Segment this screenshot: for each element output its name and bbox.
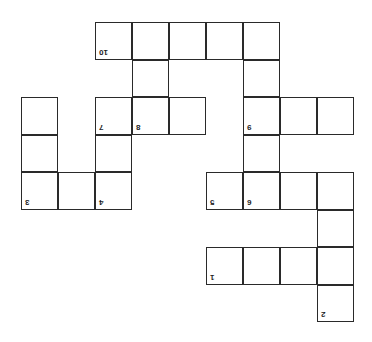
crossword-cell[interactable]: [317, 247, 354, 285]
clue-number: 8: [136, 123, 140, 131]
crossword-cell[interactable]: [243, 22, 280, 60]
crossword-cell[interactable]: [206, 22, 243, 60]
crossword-cell[interactable]: [280, 97, 317, 135]
crossword-cell-5[interactable]: 5: [206, 172, 243, 210]
crossword-cell[interactable]: [132, 22, 169, 60]
crossword-cell[interactable]: [169, 97, 206, 135]
clue-number: 1: [210, 273, 214, 281]
crossword-cell[interactable]: [243, 135, 280, 173]
crossword-cell-2[interactable]: 2: [317, 285, 354, 323]
crossword-cell[interactable]: [317, 172, 354, 210]
crossword-cell[interactable]: [132, 60, 169, 98]
clue-number: 3: [25, 198, 29, 206]
crossword-cell-6[interactable]: 6: [243, 172, 280, 210]
crossword-cell[interactable]: [243, 247, 280, 285]
crossword-cell[interactable]: [169, 22, 206, 60]
clue-number: 4: [99, 198, 103, 206]
crossword-cell-8[interactable]: 8: [132, 97, 169, 135]
crossword-cell-3[interactable]: 3: [21, 172, 58, 210]
crossword-cell[interactable]: [21, 97, 58, 135]
crossword-cell[interactable]: [58, 172, 95, 210]
clue-number: 5: [210, 198, 214, 206]
crossword-cell-9[interactable]: 9: [243, 97, 280, 135]
crossword-cell[interactable]: [317, 97, 354, 135]
clue-number: 6: [247, 198, 251, 206]
crossword-cell-7[interactable]: 7: [95, 97, 132, 135]
crossword-grid: 10789345612: [0, 0, 372, 342]
clue-number: 10: [99, 48, 108, 56]
crossword-cell[interactable]: [280, 172, 317, 210]
crossword-cell-4[interactable]: 4: [95, 172, 132, 210]
crossword-cell[interactable]: [95, 135, 132, 173]
crossword-cell[interactable]: [21, 135, 58, 173]
clue-number: 2: [321, 310, 325, 318]
crossword-cell[interactable]: [280, 247, 317, 285]
crossword-cell-10[interactable]: 10: [95, 22, 132, 60]
clue-number: 7: [99, 123, 103, 131]
crossword-cell[interactable]: [243, 60, 280, 98]
crossword-cell[interactable]: [317, 210, 354, 248]
crossword-cell-1[interactable]: 1: [206, 247, 243, 285]
clue-number: 9: [247, 123, 251, 131]
